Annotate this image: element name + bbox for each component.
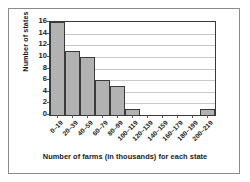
bar-slot xyxy=(95,22,110,115)
x-tick-mark xyxy=(102,115,103,118)
x-tick-mark xyxy=(117,115,118,118)
bar-slot xyxy=(170,22,185,115)
y-tick-label: 14 xyxy=(27,29,47,37)
x-tick-mark xyxy=(147,115,148,118)
bar xyxy=(110,86,125,115)
x-tick-mark xyxy=(192,115,193,118)
x-tick-mark xyxy=(177,115,178,118)
bar xyxy=(50,22,65,115)
x-tick-mark xyxy=(132,115,133,118)
y-tick-label: 8 xyxy=(27,64,47,72)
x-tick-mark xyxy=(87,115,88,118)
bar-slot xyxy=(80,22,95,115)
bar xyxy=(65,51,80,115)
bar xyxy=(80,57,95,115)
bar-slot xyxy=(185,22,200,115)
plot-area xyxy=(49,21,216,116)
y-tick-label: 4 xyxy=(27,87,47,95)
x-axis-tick-labels: 0–1920–3940–5960–7980–99100–119120–13914… xyxy=(49,115,216,155)
x-tick-mark xyxy=(162,115,163,118)
bar-series xyxy=(50,22,215,115)
bar xyxy=(95,80,110,115)
y-tick-label: 12 xyxy=(27,40,47,48)
y-axis-tick-labels: 0246810121416 xyxy=(27,21,47,126)
bar-slot xyxy=(50,22,65,115)
bar-slot xyxy=(200,22,215,115)
bar-slot xyxy=(140,22,155,115)
bar-slot xyxy=(110,22,125,115)
y-tick-label: 2 xyxy=(27,98,47,106)
y-tick-label: 10 xyxy=(27,52,47,60)
x-tick-mark xyxy=(57,115,58,118)
x-tick-mark xyxy=(72,115,73,118)
bar-slot xyxy=(65,22,80,115)
bar-slot xyxy=(155,22,170,115)
y-tick-label: 6 xyxy=(27,75,47,83)
histogram-figure: Number of states 0246810121416 0–1920–39… xyxy=(8,8,240,174)
x-axis-title: Number of farms (in thousands) for each … xyxy=(9,152,241,161)
bar-slot xyxy=(125,22,140,115)
y-tick-label: 16 xyxy=(27,17,47,25)
y-tick-label: 0 xyxy=(27,110,47,118)
x-tick-mark xyxy=(207,115,208,118)
